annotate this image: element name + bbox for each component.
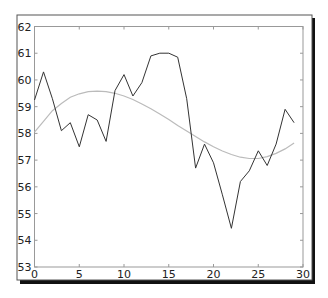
y-tick-label: 53 [18, 261, 32, 274]
x-tick-label: 30 [296, 268, 310, 281]
y-tick-label: 57 [18, 154, 32, 167]
x-tick-label: 25 [251, 268, 265, 281]
axes-box [35, 27, 304, 268]
figure: 53545556575859606162 051015202530 [0, 0, 328, 298]
x-tick-label: 0 [31, 268, 38, 281]
x-tick-label: 15 [162, 268, 176, 281]
y-tick-label: 55 [18, 208, 32, 221]
y-tick-label: 59 [18, 101, 32, 114]
y-tick-label: 54 [18, 234, 32, 247]
x-tick-label: 5 [76, 268, 83, 281]
y-tick-label: 58 [18, 127, 32, 140]
y-tick-label: 61 [18, 47, 32, 60]
x-tick-label: 10 [117, 268, 131, 281]
y-tick-label: 62 [18, 21, 32, 34]
y-tick-label: 60 [18, 74, 32, 87]
y-tick-label: 56 [18, 181, 32, 194]
x-tick-label: 20 [207, 268, 221, 281]
